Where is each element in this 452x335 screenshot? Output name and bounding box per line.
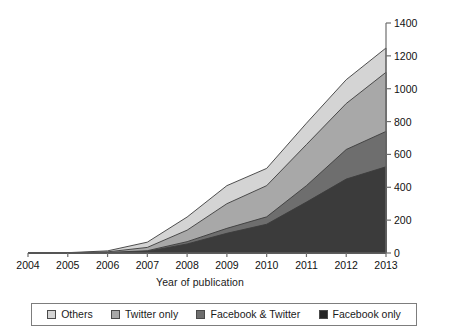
legend-label: Facebook only (333, 309, 401, 320)
x-tick-label: 2009 (215, 259, 239, 271)
y-tick-label: 600 (394, 148, 412, 160)
legend-swatch-icon (319, 310, 328, 319)
x-tick-label: 2007 (136, 259, 160, 271)
legend-label: Others (61, 309, 93, 320)
chart-svg: 2004200520062007200820092010201120122013… (0, 0, 452, 290)
y-tick-label: 400 (394, 181, 412, 193)
y-tick-label: 1400 (394, 17, 418, 29)
y-tick-label: 0 (394, 247, 400, 259)
legend-item[interactable]: Facebook only (319, 309, 401, 320)
legend-item[interactable]: Facebook & Twitter (196, 309, 300, 320)
x-tick-label: 2005 (56, 259, 80, 271)
legend-label: Facebook & Twitter (210, 309, 300, 320)
y-tick-label: 800 (394, 116, 412, 128)
plot-area: 2004200520062007200820092010201120122013… (0, 0, 452, 290)
legend-swatch-icon (111, 310, 120, 319)
legend-swatch-icon (196, 310, 205, 319)
legend-swatch-icon (47, 310, 56, 319)
legend-item[interactable]: Others (47, 309, 93, 320)
chart-legend: OthersTwitter onlyFacebook & TwitterFace… (31, 303, 417, 326)
legend-label: Twitter only (125, 309, 178, 320)
legend-item[interactable]: Twitter only (111, 309, 178, 320)
x-tick-label: 2010 (255, 259, 279, 271)
x-tick-label: 2006 (96, 259, 120, 271)
y-tick-label: 1200 (394, 50, 418, 62)
x-axis-title: Year of publication (0, 276, 400, 288)
x-tick-label: 2008 (175, 259, 199, 271)
x-tick-label: 2011 (295, 259, 318, 271)
x-tick-label: 2012 (335, 259, 359, 271)
y-tick-label: 1000 (394, 83, 418, 95)
x-tick-label: 2004 (16, 259, 40, 271)
x-tick-label: 2013 (374, 259, 398, 271)
y-tick-label: 200 (394, 214, 412, 226)
chart-figure: 2004200520062007200820092010201120122013… (0, 0, 452, 335)
